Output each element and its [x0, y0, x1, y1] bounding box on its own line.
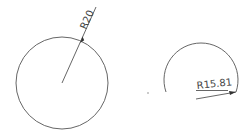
- dimension-label-r20: R20: [78, 8, 96, 30]
- arc-center-mark: [147, 92, 149, 94]
- dimension-label-r15-81: R15.81: [196, 76, 233, 91]
- cad-canvas: R20 R15.81: [0, 0, 243, 137]
- dimension-arrowhead-r15-81: [229, 91, 236, 95]
